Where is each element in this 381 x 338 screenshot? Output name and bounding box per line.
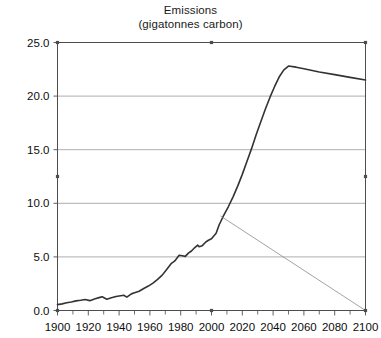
axis-marker <box>210 309 213 312</box>
plot-frame <box>58 43 366 311</box>
axis-marker <box>56 309 59 312</box>
x-tick-label: 2000 <box>199 321 225 333</box>
y-tick-labels-group: 0.05.010.015.020.025.0 <box>27 37 49 317</box>
x-tick-labels-group: 1900192019401960198020002020204020602080… <box>45 321 379 333</box>
x-tick-label: 1940 <box>106 321 132 333</box>
x-tick-label: 1980 <box>168 321 194 333</box>
series-line-emissions-reduction-path <box>221 216 366 310</box>
x-tick-label: 1960 <box>137 321 163 333</box>
y-tick-label: 0.0 <box>34 305 50 317</box>
axis-corner-markers <box>56 41 367 312</box>
gridlines-group <box>58 96 366 257</box>
x-tick-label: 2100 <box>353 321 379 333</box>
axis-marker <box>364 309 367 312</box>
y-tick-label: 15.0 <box>27 144 49 156</box>
x-tick-label: 2060 <box>291 321 317 333</box>
axis-marker <box>210 41 213 44</box>
y-tick-label: 25.0 <box>27 37 49 49</box>
series-line-emissions-reference <box>58 66 366 305</box>
x-tick-label: 1900 <box>45 321 71 333</box>
plot-area: 0.05.010.015.020.025.0 19001920194019601… <box>0 0 381 338</box>
axis-marker <box>364 175 367 178</box>
y-tick-label: 10.0 <box>27 197 49 209</box>
axis-marker <box>56 41 59 44</box>
frame-rect <box>58 43 366 311</box>
y-tick-label: 20.0 <box>27 90 49 102</box>
y-tick-label: 5.0 <box>34 251 50 263</box>
x-tick-label: 2020 <box>230 321 256 333</box>
x-tick-label: 2040 <box>260 321 286 333</box>
axis-marker <box>56 175 59 178</box>
x-tick-label: 2080 <box>322 321 348 333</box>
x-tick-label: 1920 <box>76 321 102 333</box>
data-series-group <box>58 66 366 310</box>
emissions-chart: Emissions (gigatonnes carbon) 0.05.010.0… <box>0 0 381 338</box>
axis-marker <box>364 41 367 44</box>
